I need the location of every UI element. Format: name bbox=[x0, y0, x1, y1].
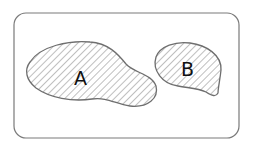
venn-diagram: A B bbox=[0, 0, 253, 147]
set-b-label: B bbox=[181, 58, 194, 80]
set-a-label: A bbox=[74, 67, 87, 89]
